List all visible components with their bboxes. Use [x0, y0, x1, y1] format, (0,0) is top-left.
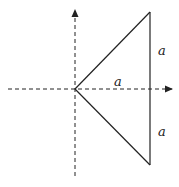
diagram-canvas: a a a — [0, 0, 179, 187]
triangle-lower-side — [75, 89, 150, 165]
label-upper-side: a — [158, 43, 166, 58]
label-horizontal-distance: a — [114, 74, 122, 89]
label-lower-side: a — [158, 124, 166, 139]
triangle-upper-side — [75, 12, 150, 89]
